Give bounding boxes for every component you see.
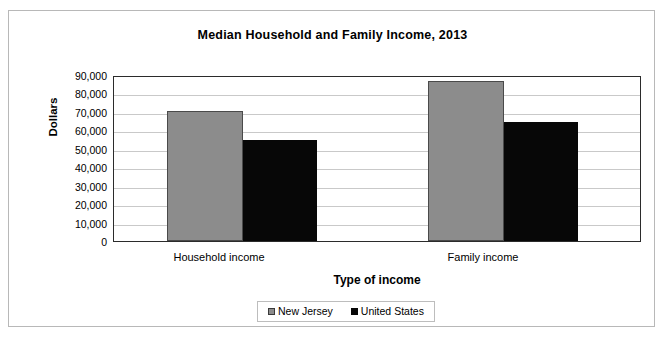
chart-legend: New Jersey United States	[257, 301, 435, 322]
y-tick-label: 0	[49, 237, 107, 247]
plot-area	[113, 76, 641, 242]
legend-entry-united-states: United States	[351, 305, 424, 317]
x-tick-label-household-income: Household income	[113, 251, 325, 263]
y-tick-label: 10,000	[49, 219, 107, 229]
x-tick-label-family-income: Family income	[377, 251, 589, 263]
y-tick-label: 30,000	[49, 182, 107, 192]
y-tick-label: 40,000	[49, 163, 107, 173]
bar-new-jersey-household	[167, 111, 243, 241]
bar-united-states-household	[243, 140, 317, 241]
legend-entry-new-jersey: New Jersey	[268, 305, 333, 317]
gray-square-icon	[268, 308, 275, 315]
y-tick-label: 80,000	[49, 89, 107, 99]
y-tick-label: 90,000	[49, 71, 107, 81]
legend-label: United States	[361, 305, 424, 317]
bar-united-states-family	[504, 122, 578, 241]
chart-figure: Median Household and Family Income, 2013…	[8, 10, 655, 327]
bar-new-jersey-family	[428, 81, 504, 241]
y-tick-label: 20,000	[49, 200, 107, 210]
black-square-icon	[351, 308, 358, 315]
gridline	[114, 95, 640, 96]
y-tick-label: 60,000	[49, 126, 107, 136]
y-tick-label: 70,000	[49, 108, 107, 118]
chart-title: Median Household and Family Income, 2013	[9, 28, 656, 42]
y-tick-label: 50,000	[49, 145, 107, 155]
y-axis-tick-labels: 90,000 80,000 70,000 60,000 50,000 40,00…	[45, 76, 107, 242]
legend-label: New Jersey	[278, 305, 333, 317]
x-axis-title: Type of income	[113, 273, 641, 287]
